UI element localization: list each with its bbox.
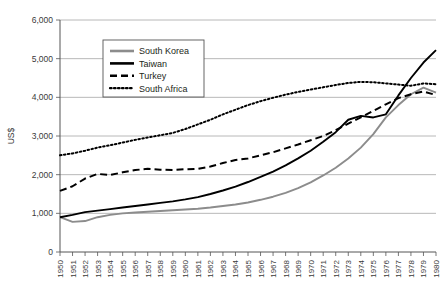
x-tick-label: 1959 xyxy=(169,259,178,277)
x-tick-label: 1968 xyxy=(282,259,291,277)
x-tick-label: 1954 xyxy=(106,259,115,277)
line-chart: 01,0002,0003,0004,0005,0006,000US$195019… xyxy=(0,0,441,301)
x-tick-label: 1951 xyxy=(69,259,78,277)
x-tick-label: 1977 xyxy=(394,259,403,277)
x-tick-label: 1953 xyxy=(94,259,103,277)
x-tick-label: 1967 xyxy=(269,259,278,277)
x-tick-label: 1973 xyxy=(344,259,353,277)
x-tick-label: 1950 xyxy=(56,259,65,277)
x-tick-label: 1965 xyxy=(244,259,253,277)
x-tick-label: 1972 xyxy=(332,259,341,277)
x-tick-label: 1969 xyxy=(294,259,303,277)
x-tick-label: 1963 xyxy=(219,259,228,277)
y-tick-label: 5,000 xyxy=(32,54,54,64)
x-tick-label: 1975 xyxy=(369,259,378,277)
legend-label: Taiwan xyxy=(139,59,167,69)
x-tick-label: 1961 xyxy=(194,259,203,277)
x-tick-label: 1957 xyxy=(144,259,153,277)
x-tick-label: 1960 xyxy=(181,259,190,277)
x-tick-label: 1976 xyxy=(382,259,391,277)
y-tick-label: 0 xyxy=(48,247,53,257)
x-tick-label: 1974 xyxy=(357,259,366,277)
x-tick-label: 1956 xyxy=(131,259,140,277)
chart-container: 01,0002,0003,0004,0005,0006,000US$195019… xyxy=(0,0,441,301)
legend-label: South Africa xyxy=(139,84,188,94)
legend-label: South Korea xyxy=(139,46,189,56)
series-line xyxy=(60,92,436,191)
x-tick-label: 1958 xyxy=(156,259,165,277)
y-tick-label: 1,000 xyxy=(32,208,54,218)
y-tick-label: 6,000 xyxy=(32,15,54,25)
y-axis-title: US$ xyxy=(6,127,16,144)
x-tick-label: 1971 xyxy=(319,259,328,277)
x-tick-label: 1978 xyxy=(407,259,416,277)
x-tick-label: 1979 xyxy=(419,259,428,277)
x-tick-label: 1952 xyxy=(81,259,90,277)
y-tick-label: 3,000 xyxy=(32,131,54,141)
x-tick-label: 1955 xyxy=(119,259,128,277)
legend-label: Turkey xyxy=(139,71,167,81)
x-tick-label: 1970 xyxy=(307,259,316,277)
x-tick-label: 1966 xyxy=(257,259,266,277)
x-tick-label: 1962 xyxy=(206,259,215,277)
x-tick-label: 1964 xyxy=(231,259,240,277)
y-tick-label: 2,000 xyxy=(32,170,54,180)
x-tick-label: 1980 xyxy=(432,259,441,277)
y-tick-label: 4,000 xyxy=(32,92,54,102)
